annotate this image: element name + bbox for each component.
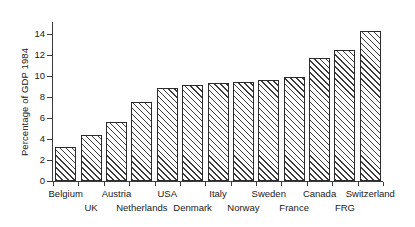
bar	[55, 147, 76, 181]
x-axis-tick	[256, 182, 257, 186]
x-axis-label-switzerland: Switzerland	[330, 188, 410, 199]
bar-chart: Percentage of GDP 1984 02468101214 Belgi…	[0, 0, 415, 227]
x-axis-label-frg: FRG	[305, 202, 385, 213]
x-axis-tick	[129, 182, 130, 186]
y-axis-tick-label-box: 14	[2, 34, 45, 44]
y-axis-tick-label: 0	[5, 176, 45, 186]
y-axis-tick-label: 12	[5, 50, 45, 60]
y-axis-tick-label: 2	[5, 155, 45, 165]
bar	[360, 31, 381, 181]
x-axis-tick	[332, 182, 333, 186]
x-axis-tick	[104, 182, 105, 186]
bar	[233, 82, 254, 181]
x-axis-tick	[155, 182, 156, 186]
y-axis-tick-label-box: 12	[2, 55, 45, 65]
bar	[309, 58, 330, 181]
x-axis-tick	[53, 182, 54, 186]
y-axis-tick-label: 6	[5, 113, 45, 123]
bar	[208, 83, 229, 181]
x-axis-tick	[205, 182, 206, 186]
x-axis-tick	[358, 182, 359, 186]
plot-area	[53, 23, 383, 181]
bar	[258, 80, 279, 181]
y-axis-tick-label: 14	[5, 29, 45, 39]
x-axis-line	[52, 181, 383, 182]
x-axis-tick	[383, 182, 384, 186]
x-axis-tick	[231, 182, 232, 186]
x-axis-tick	[281, 182, 282, 186]
y-axis-tick-label-box: 8	[2, 97, 45, 107]
bar	[106, 122, 127, 181]
bar	[284, 77, 305, 181]
y-axis-tick-label-box: 6	[2, 118, 45, 128]
bar	[157, 88, 178, 181]
bar	[334, 50, 355, 181]
y-axis-tick-label: 8	[5, 92, 45, 102]
bar	[81, 135, 102, 181]
x-axis-tick	[78, 182, 79, 186]
bar	[182, 85, 203, 181]
bar	[131, 102, 152, 181]
y-axis-tick-label-box: 10	[2, 76, 45, 86]
x-axis-tick	[180, 182, 181, 186]
x-axis-tick	[307, 182, 308, 186]
y-axis-tick-label-box: 2	[2, 160, 45, 170]
y-axis-tick-label: 10	[5, 71, 45, 81]
y-axis-tick-label: 4	[5, 134, 45, 144]
y-axis-tick-label-box: 4	[2, 139, 45, 149]
